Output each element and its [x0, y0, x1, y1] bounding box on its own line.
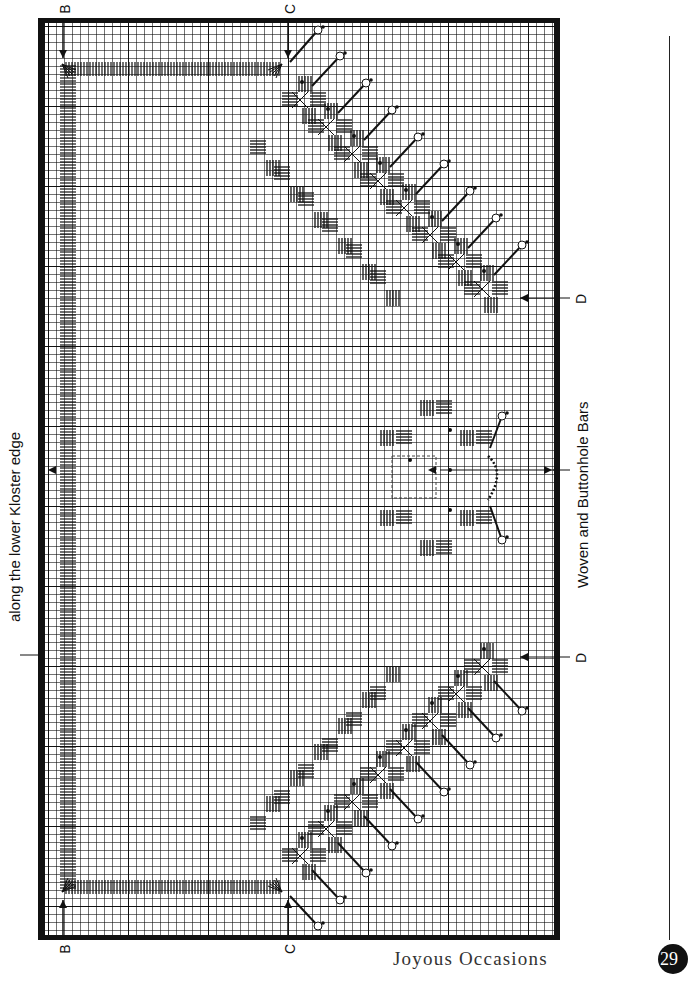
bottom-edge-label: Woven and Buttonhole Bars: [574, 401, 591, 588]
marker-d-upper: D: [574, 292, 588, 306]
page-number-badge: 29: [658, 944, 688, 974]
marker-b-top: B: [58, 2, 72, 16]
book-title: Joyous Occasions: [393, 948, 548, 970]
page-margin-rule: [669, 36, 670, 940]
marker-c-top: C: [283, 2, 297, 16]
marker-b-bottom: B: [58, 942, 72, 956]
marker-c-bottom: C: [283, 942, 297, 956]
top-edge-label: along the lower Kloster edge: [6, 432, 23, 622]
marker-d-lower: D: [574, 651, 588, 665]
stitch-chart-grid: [38, 18, 560, 940]
